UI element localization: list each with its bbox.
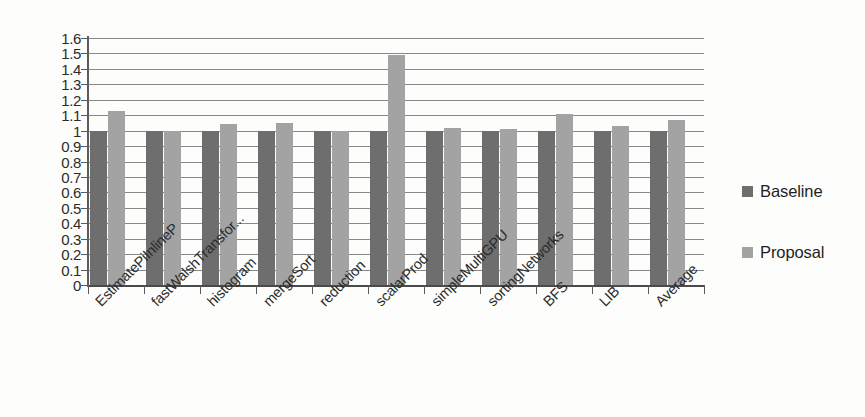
y-axis-tick bbox=[81, 285, 88, 286]
bar-baseline[interactable] bbox=[594, 131, 611, 285]
y-axis-tick-label: 0.2 bbox=[61, 246, 81, 263]
y-axis-tick-label: 1.6 bbox=[61, 30, 81, 47]
bar-proposal[interactable] bbox=[444, 128, 461, 285]
x-axis-tick bbox=[256, 285, 257, 294]
y-axis-tick-label: 0.7 bbox=[61, 168, 81, 185]
y-axis-tick-label: 1.3 bbox=[61, 76, 81, 93]
bar-proposal[interactable] bbox=[276, 123, 293, 285]
y-axis-tick-label: 0.3 bbox=[61, 230, 81, 247]
y-axis-tick-label: 0.4 bbox=[61, 215, 81, 232]
y-axis-tick-label: 1.1 bbox=[61, 107, 81, 124]
y-axis-tick bbox=[81, 254, 88, 255]
bar-baseline[interactable] bbox=[90, 131, 107, 285]
y-axis-tick bbox=[81, 223, 88, 224]
y-axis-tick-label: 0.5 bbox=[61, 199, 81, 216]
y-axis-tick bbox=[81, 208, 88, 209]
y-axis-tick bbox=[81, 192, 88, 193]
bar-baseline[interactable] bbox=[370, 131, 387, 285]
y-axis-tick bbox=[81, 162, 88, 163]
plot-area bbox=[88, 38, 704, 285]
x-axis-tick bbox=[480, 285, 481, 294]
bar-baseline[interactable] bbox=[258, 131, 275, 285]
x-axis-tick bbox=[424, 285, 425, 294]
bar-proposal[interactable] bbox=[164, 131, 181, 285]
x-axis-tick bbox=[88, 285, 89, 294]
legend-item-proposal[interactable]: Proposal bbox=[742, 243, 857, 262]
bar-group bbox=[424, 38, 480, 285]
bar-group bbox=[592, 38, 648, 285]
y-axis-tick-label: 1.5 bbox=[61, 45, 81, 62]
legend-swatch-proposal bbox=[742, 247, 753, 258]
bar-proposal[interactable] bbox=[668, 120, 685, 285]
legend-label-baseline: Baseline bbox=[760, 182, 823, 201]
x-axis-tick bbox=[368, 285, 369, 294]
bar-proposal[interactable] bbox=[556, 114, 573, 285]
y-axis-tick bbox=[81, 100, 88, 101]
y-axis-tick-label: 0.1 bbox=[61, 261, 81, 278]
y-axis-tick bbox=[81, 131, 88, 132]
y-axis-tick-label: 1 bbox=[73, 122, 81, 139]
bar-group bbox=[368, 38, 424, 285]
x-axis-tick bbox=[704, 285, 705, 294]
x-axis-tick bbox=[144, 285, 145, 294]
y-axis-tick bbox=[81, 69, 88, 70]
y-axis-tick-label: 0 bbox=[73, 277, 81, 294]
bar-proposal[interactable] bbox=[108, 111, 125, 285]
chart-legend: Baseline Proposal bbox=[742, 182, 857, 304]
y-axis-tick bbox=[81, 177, 88, 178]
y-axis-tick bbox=[81, 53, 88, 54]
bar-group bbox=[256, 38, 312, 285]
bar-proposal[interactable] bbox=[612, 126, 629, 285]
y-axis-tick bbox=[81, 270, 88, 271]
y-axis-tick-label: 0.9 bbox=[61, 138, 81, 155]
y-axis-tick bbox=[81, 239, 88, 240]
y-axis-labels: 00.10.20.30.40.50.60.70.80.911.11.21.31.… bbox=[40, 38, 84, 285]
legend-swatch-baseline bbox=[742, 186, 753, 197]
x-axis-tick bbox=[648, 285, 649, 294]
x-axis-tick bbox=[592, 285, 593, 294]
y-axis-tick-label: 0.8 bbox=[61, 153, 81, 170]
y-axis-tick-label: 0.6 bbox=[61, 184, 81, 201]
bar-proposal[interactable] bbox=[332, 131, 349, 285]
x-axis-tick bbox=[200, 285, 201, 294]
bar-group bbox=[88, 38, 144, 285]
bar-chart: 00.10.20.30.40.50.60.70.80.911.11.21.31.… bbox=[0, 0, 865, 417]
y-axis-tick bbox=[81, 146, 88, 147]
legend-label-proposal: Proposal bbox=[760, 243, 824, 262]
y-axis-tick bbox=[81, 38, 88, 39]
bar-group bbox=[312, 38, 368, 285]
bar-proposal[interactable] bbox=[500, 129, 517, 285]
bar-group bbox=[648, 38, 704, 285]
y-axis-tick-label: 1.2 bbox=[61, 91, 81, 108]
x-axis-tick bbox=[536, 285, 537, 294]
chart-page: 00.10.20.30.40.50.60.70.80.911.11.21.31.… bbox=[0, 0, 865, 417]
bar-baseline[interactable] bbox=[650, 131, 667, 285]
bar-proposal[interactable] bbox=[388, 55, 405, 285]
bar-proposal[interactable] bbox=[220, 124, 237, 285]
y-axis-tick bbox=[81, 115, 88, 116]
x-axis-tick bbox=[312, 285, 313, 294]
y-axis-tick bbox=[81, 84, 88, 85]
legend-item-baseline[interactable]: Baseline bbox=[742, 182, 857, 201]
y-axis-tick-label: 1.4 bbox=[61, 60, 81, 77]
